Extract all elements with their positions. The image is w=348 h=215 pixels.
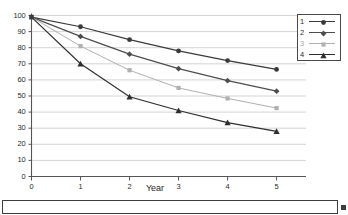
- data-point-marker: [321, 31, 327, 37]
- data-point-marker: [274, 67, 279, 72]
- legend-item-1[interactable]: 1: [300, 16, 338, 27]
- data-point-marker: [225, 78, 231, 84]
- legend-item-2[interactable]: 2: [300, 27, 338, 38]
- legend-marker-icon: [319, 40, 328, 49]
- plot-canvas: [0, 0, 348, 196]
- series-line: [32, 17, 277, 131]
- y-tick-label: 90: [4, 28, 26, 36]
- data-point-marker: [274, 106, 278, 110]
- x-axis-title: Year: [110, 183, 200, 193]
- y-tick-label: 60: [4, 76, 26, 84]
- legend-item-3[interactable]: 3: [300, 38, 338, 49]
- x-tick-label: 5: [270, 183, 284, 191]
- data-point-marker: [127, 68, 131, 72]
- legend-item-swatch: [308, 39, 336, 48]
- data-point-marker: [78, 34, 84, 40]
- data-point-marker: [29, 15, 34, 20]
- y-tick-label: 30: [4, 124, 26, 132]
- data-point-marker: [78, 44, 82, 48]
- series-4: [32, 17, 280, 134]
- frame-corner-marker: [341, 205, 346, 210]
- series-2: [32, 17, 280, 94]
- y-tick-label: 0: [4, 173, 26, 181]
- y-tick-label: 100: [4, 12, 26, 20]
- legend-marker-icon: [319, 29, 328, 38]
- data-point-marker: [321, 20, 326, 25]
- y-tick-label: 20: [4, 140, 26, 148]
- y-tick-label: 50: [4, 92, 26, 100]
- data-point-marker: [176, 49, 181, 54]
- data-point-marker: [225, 58, 230, 63]
- y-tick-label: 80: [4, 44, 26, 52]
- data-point-marker: [176, 66, 182, 72]
- data-point-marker: [176, 86, 180, 90]
- window-bottom-frame: [2, 200, 338, 214]
- legend-marker-icon: [319, 51, 328, 60]
- legend-item-swatch: [308, 50, 336, 59]
- y-tick-label: 70: [4, 60, 26, 68]
- chart-screenshot: 0102030405060708090100 012345 Year 1234: [0, 0, 348, 215]
- legend-item-label: 2: [300, 29, 307, 37]
- data-point-marker: [78, 24, 83, 29]
- chart-legend[interactable]: 1234: [297, 14, 341, 61]
- x-tick-label: 4: [221, 183, 235, 191]
- legend-marker-icon: [319, 18, 328, 27]
- legend-item-label: 1: [300, 18, 307, 26]
- data-point-marker: [225, 96, 229, 100]
- legend-item-4[interactable]: 4: [300, 49, 338, 60]
- y-tick-label: 10: [4, 156, 26, 164]
- data-point-marker: [274, 88, 280, 94]
- data-point-marker: [127, 37, 132, 42]
- legend-item-swatch: [308, 28, 336, 37]
- x-tick-label: 1: [74, 183, 88, 191]
- legend-item-label: 4: [300, 51, 307, 59]
- data-point-marker: [321, 42, 325, 46]
- legend-item-swatch: [308, 17, 336, 26]
- line-chart-figure: 0102030405060708090100 012345 Year 1234: [0, 0, 348, 196]
- legend-item-label: 3: [300, 40, 307, 48]
- data-point-marker: [320, 52, 326, 58]
- x-tick-label: 0: [25, 183, 39, 191]
- data-point-marker: [127, 51, 133, 57]
- y-tick-label: 40: [4, 108, 26, 116]
- data-point-marker: [126, 94, 132, 100]
